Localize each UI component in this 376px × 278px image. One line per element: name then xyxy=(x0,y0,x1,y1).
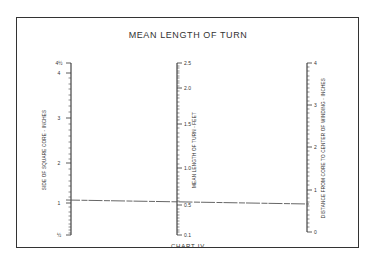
tick-label: 0 xyxy=(314,229,317,235)
tick-label: 2 xyxy=(314,144,317,150)
tick-label: 1 xyxy=(314,187,317,193)
tick-label: 2 xyxy=(58,160,61,166)
axes-layer: 4½4321½SIDE OF SQUARE CORE - INCHES2.52.… xyxy=(42,60,326,238)
tick-label: 3 xyxy=(58,115,61,121)
tick-label: 4½ xyxy=(56,60,64,66)
tick-label: 0.1 xyxy=(184,232,191,238)
tick-label: ½ xyxy=(57,232,62,238)
tick-label: 4 xyxy=(58,70,61,76)
axis-left: 4½4321½SIDE OF SQUARE CORE - INCHES xyxy=(42,60,71,238)
tick-label: 3 xyxy=(314,102,317,108)
axis-center: 2.52.01.51.00.50.1MEAN LENGTH OF TURN - … xyxy=(177,60,197,238)
axis-title: SIDE OF SQUARE CORE - INCHES xyxy=(42,110,47,191)
tick-label: 2.5 xyxy=(184,60,191,66)
tick-label: 2.0 xyxy=(184,85,191,91)
tick-label: 0.5 xyxy=(184,202,191,208)
axis-right: 43210DISTANCE FROM CORE TO CENTER OF WIN… xyxy=(307,60,326,235)
axis-title: MEAN LENGTH OF TURN - FEET xyxy=(192,112,197,188)
axis-title: DISTANCE FROM CORE TO CENTER OF WINDING … xyxy=(321,78,326,218)
tick-label: 1.5 xyxy=(184,121,191,127)
tick-label: 1 xyxy=(58,200,61,206)
tick-label: 1.0 xyxy=(184,165,191,171)
tick-label: 4 xyxy=(314,60,317,66)
nomogram-plot: 4½4321½SIDE OF SQUARE CORE - INCHES2.52.… xyxy=(0,0,376,278)
